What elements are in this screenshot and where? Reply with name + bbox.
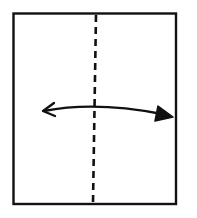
fold-diagram xyxy=(0,0,197,218)
